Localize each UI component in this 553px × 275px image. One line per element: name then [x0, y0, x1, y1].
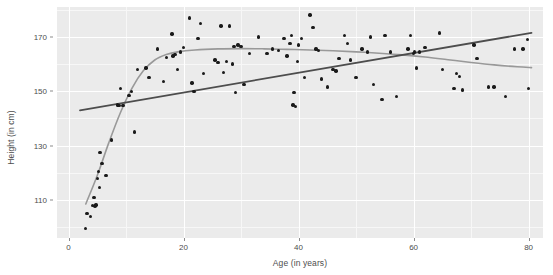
y-tick-label: 170: [34, 32, 47, 41]
data-point: [513, 47, 516, 50]
data-point: [406, 47, 409, 50]
data-point: [418, 50, 421, 53]
y-tick-mark: [50, 145, 53, 146]
data-point: [228, 24, 231, 27]
x-tick-mark: [299, 238, 300, 241]
data-point: [133, 130, 136, 133]
data-point: [192, 90, 195, 93]
x-tick-label: 0: [66, 243, 70, 252]
data-point: [121, 104, 124, 107]
y-tick-mark: [50, 91, 53, 92]
data-point: [179, 50, 182, 53]
data-point: [232, 45, 235, 48]
data-point: [265, 52, 268, 55]
data-point: [334, 69, 337, 72]
data-point: [285, 54, 288, 57]
data-point: [239, 45, 242, 48]
x-axis-ticks: 020406080: [57, 238, 543, 256]
data-point: [349, 58, 352, 61]
data-point: [165, 56, 168, 59]
data-point: [360, 47, 363, 50]
data-point: [369, 35, 372, 38]
data-point: [452, 87, 455, 90]
data-point: [94, 203, 97, 206]
data-point: [472, 43, 475, 46]
data-point: [461, 88, 464, 91]
data-point: [188, 16, 191, 19]
y-tick-label: 110: [34, 195, 47, 204]
data-point: [415, 66, 418, 69]
data-point: [487, 85, 490, 88]
data-point: [492, 85, 495, 88]
plot-panel: [57, 7, 543, 238]
data-point: [127, 94, 130, 97]
data-point: [170, 32, 173, 35]
data-point: [100, 162, 103, 165]
data-point: [257, 35, 260, 38]
data-point: [521, 47, 524, 50]
data-point: [104, 174, 107, 177]
x-tick-mark: [184, 238, 185, 241]
data-point: [311, 26, 314, 29]
data-point: [320, 77, 323, 80]
data-point: [438, 31, 441, 34]
data-point: [98, 151, 101, 154]
data-point: [326, 85, 329, 88]
y-tick-label: 130: [34, 141, 47, 150]
x-tick-mark: [69, 238, 70, 241]
data-point: [85, 212, 88, 215]
data-point: [231, 62, 234, 65]
data-point: [117, 104, 120, 107]
data-point: [380, 98, 383, 101]
y-axis-ticks: 110130150170: [0, 7, 53, 238]
data-point: [337, 57, 340, 60]
data-point: [92, 196, 95, 199]
scatter-plot-figure: Height (in cm) 110130150170 020406080 Ag…: [0, 0, 553, 275]
data-point: [282, 37, 285, 40]
data-point: [196, 37, 199, 40]
data-point: [173, 53, 176, 56]
data-point: [383, 34, 386, 37]
linear-regression-line: [57, 7, 543, 238]
x-tick-label: 20: [179, 243, 188, 252]
x-tick-mark: [414, 238, 415, 241]
data-point: [475, 57, 478, 60]
x-tick-label: 60: [409, 243, 418, 252]
y-tick-mark: [50, 199, 53, 200]
data-point: [292, 91, 295, 94]
data-point: [144, 66, 147, 69]
data-point: [89, 215, 92, 218]
data-point: [96, 177, 99, 180]
x-tick-label: 80: [524, 243, 533, 252]
y-tick-label: 150: [34, 87, 47, 96]
data-point: [300, 37, 303, 40]
data-point: [308, 13, 311, 16]
x-axis-title: Age (in years): [57, 258, 543, 268]
data-point: [366, 50, 369, 53]
linear-regression: [80, 33, 531, 110]
y-tick-mark: [50, 36, 53, 37]
x-tick-label: 40: [294, 243, 303, 252]
data-point: [389, 50, 392, 53]
data-point: [219, 24, 222, 27]
data-point: [242, 83, 245, 86]
data-point: [190, 81, 193, 84]
x-tick-mark: [529, 238, 530, 241]
data-point: [297, 43, 300, 46]
